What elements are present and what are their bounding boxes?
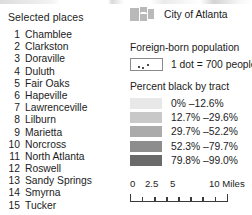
place-number: 14 <box>0 187 20 198</box>
map-legend-panel: Selected places 1Chamblee2Clarkston3Dora… <box>0 0 252 215</box>
percent-black-class-list: 0% –12.6%12.7% –29.6%29.7% –52.2%52.3% –… <box>130 96 252 167</box>
scale-bar-tick <box>190 197 191 202</box>
place-name: Roswell <box>25 163 61 174</box>
legend-class-row: 52.3% –79.7% <box>130 139 252 153</box>
legend-class-row: 29.7% –52.2% <box>130 125 252 139</box>
list-item: 15Tucker <box>0 200 126 212</box>
legend-class-label: 0% –12.6% <box>171 98 224 109</box>
legend-color-swatch <box>130 112 162 123</box>
scale-bar-tick <box>130 194 131 202</box>
list-item: 10Norcross <box>0 139 126 151</box>
place-name: Norcross <box>25 139 66 150</box>
city-boundary-patch-icon <box>130 7 155 22</box>
scale-label-0: 0 <box>130 178 135 189</box>
legend-color-swatch <box>130 98 162 109</box>
place-name: Chamblee <box>25 29 72 40</box>
list-item: 7Lawrenceville <box>0 102 126 114</box>
place-name: Fair Oaks <box>25 78 70 89</box>
place-name: Smyrna <box>25 187 60 198</box>
scale-bar-tick <box>166 197 167 202</box>
legend-class-row: 12.7% –29.6% <box>130 110 252 124</box>
place-number: 7 <box>0 102 20 113</box>
scale-bar-graphic <box>130 193 228 202</box>
place-number: 3 <box>0 53 20 64</box>
place-number: 10 <box>0 139 20 150</box>
legend-color-swatch <box>130 126 162 137</box>
legend-class-label: 29.7% –52.2% <box>171 126 238 137</box>
list-item: 12Roswell <box>0 163 126 175</box>
list-item: 13Sandy Springs <box>0 175 126 187</box>
place-name: Tucker <box>25 200 56 211</box>
place-name: Marietta <box>25 127 62 138</box>
symbology-section: City of Atlanta Foreign-born population … <box>126 0 252 215</box>
place-number: 1 <box>0 29 20 40</box>
list-item: 1Chamblee <box>0 29 126 41</box>
place-number: 9 <box>0 127 20 138</box>
scale-bar-tick <box>202 197 203 202</box>
place-name: Sandy Springs <box>25 175 92 186</box>
legend-class-label: 52.3% –79.7% <box>171 141 238 152</box>
place-number: 6 <box>0 90 20 101</box>
place-number: 11 <box>0 151 20 162</box>
list-item: 2Clarkston <box>0 41 126 53</box>
list-item: 4Duluth <box>0 66 126 78</box>
legend-entry-dot-density: 1 dot = 700 people <box>130 58 252 71</box>
scale-bar-tick <box>142 197 143 202</box>
place-name: Doraville <box>25 53 65 64</box>
place-name: Lilburn <box>25 114 56 125</box>
place-name: North Atlanta <box>25 151 85 162</box>
foreign-born-title: Foreign-born population <box>130 42 239 53</box>
place-number: 13 <box>0 175 20 186</box>
selected-places-list: 1Chamblee2Clarkston3Doraville4Duluth5Fai… <box>0 29 126 212</box>
list-item: 8Lilburn <box>0 114 126 126</box>
place-name: Duluth <box>25 66 55 77</box>
selected-places-title: Selected places <box>8 11 84 23</box>
place-number: 4 <box>0 66 20 77</box>
place-name: Hapeville <box>25 90 67 101</box>
list-item: 11North Atlanta <box>0 151 126 163</box>
scale-label-10-miles: 10 Miles <box>209 178 245 189</box>
place-name: Lawrenceville <box>25 102 87 113</box>
dot-density-label: 1 dot = 700 people <box>171 59 252 70</box>
legend-entry-city-of-atlanta: City of Atlanta <box>130 7 228 22</box>
list-item: 6Hapeville <box>0 90 126 102</box>
scale-bar-tick <box>178 197 179 202</box>
place-number: 2 <box>0 41 20 52</box>
list-item: 5Fair Oaks <box>0 78 126 90</box>
scale-bar-tick <box>227 194 228 202</box>
list-item: 3Doraville <box>0 53 126 65</box>
place-number: 8 <box>0 114 20 125</box>
place-number: 15 <box>0 200 20 211</box>
scale-bar-labels: 0 2.5 5 10 Miles <box>130 178 252 190</box>
scale-bar-tick <box>215 197 216 202</box>
legend-class-row: 79.8% –99.0% <box>130 153 252 167</box>
scale-bar: 0 2.5 5 10 Miles <box>130 178 252 202</box>
legend-color-swatch <box>130 141 162 152</box>
place-number: 12 <box>0 163 20 174</box>
scale-label-5: 5 <box>170 178 175 189</box>
scale-bar-tick <box>154 197 155 202</box>
place-number: 5 <box>0 78 20 89</box>
legend-class-label: 79.8% –99.0% <box>171 155 238 166</box>
dot-density-icon <box>130 58 163 71</box>
legend-class-label: 12.7% –29.6% <box>171 112 238 123</box>
legend-color-swatch <box>130 155 162 166</box>
percent-black-title: Percent black by tract <box>130 81 229 92</box>
list-item: 14Smyrna <box>0 187 126 199</box>
legend-class-row: 0% –12.6% <box>130 96 252 110</box>
scale-label-2-5: 2.5 <box>145 178 158 189</box>
list-item: 9Marietta <box>0 127 126 139</box>
city-of-atlanta-label: City of Atlanta <box>164 9 228 20</box>
place-name: Clarkston <box>25 41 69 52</box>
